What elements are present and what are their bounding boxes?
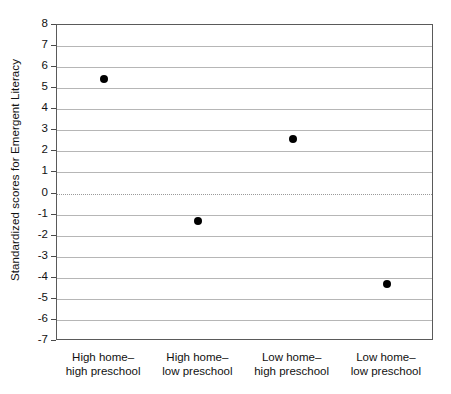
y-axis-tick-label: 8: [8, 18, 48, 30]
y-axis-tick-label: 7: [8, 39, 48, 51]
data-point: [289, 135, 297, 143]
gridline: [57, 130, 432, 131]
gridline: [57, 67, 432, 68]
gridline: [57, 320, 432, 321]
y-axis-tick-mark: [51, 340, 56, 341]
x-axis-category-label-line1: High home–: [150, 350, 244, 364]
gridline: [57, 151, 432, 152]
data-point: [100, 75, 108, 83]
y-axis-tick-label: -4: [8, 271, 48, 283]
gridline: [57, 299, 432, 300]
x-axis-category-label-line2: low preschool: [150, 364, 244, 378]
y-axis-tick-label: 2: [8, 144, 48, 156]
gridline: [57, 215, 432, 216]
gridline: [57, 172, 432, 173]
y-axis-tick-label: -6: [8, 313, 48, 325]
gridline: [57, 236, 432, 237]
gridline: [57, 257, 432, 258]
x-axis-category-label-line2: high preschool: [245, 364, 339, 378]
x-axis-category-label: Low home–high preschool: [245, 350, 339, 390]
plot-area: [56, 24, 433, 340]
y-axis-tick-label: 3: [8, 123, 48, 135]
gridline: [57, 278, 432, 279]
x-axis-category-label-line1: Low home–: [339, 350, 433, 364]
gridline: [57, 109, 432, 110]
data-point: [194, 217, 202, 225]
x-axis-category-label-line1: Low home–: [245, 350, 339, 364]
x-axis-category-label: High home–high preschool: [56, 350, 150, 390]
x-axis-category-label-line2: high preschool: [56, 364, 150, 378]
y-axis-tick-label: 4: [8, 102, 48, 114]
data-point: [383, 280, 391, 288]
y-axis-tick-label: 1: [8, 165, 48, 177]
x-axis-labels: High home–high preschoolHigh home–low pr…: [56, 350, 433, 390]
y-axis-tick-label: 6: [8, 60, 48, 72]
y-axis-tick-label: -1: [8, 208, 48, 220]
x-axis-category-label: High home–low preschool: [150, 350, 244, 390]
gridline: [57, 46, 432, 47]
x-axis-category-label-line2: low preschool: [339, 364, 433, 378]
y-axis-tick-label: -5: [8, 292, 48, 304]
x-axis-category-label-line1: High home–: [56, 350, 150, 364]
x-axis-category-label: Low home–low preschool: [339, 350, 433, 390]
zero-reference-line: [57, 194, 432, 195]
gridline: [57, 88, 432, 89]
y-axis-tick-label: 5: [8, 81, 48, 93]
y-axis-tick-label: -2: [8, 229, 48, 241]
y-axis-tick-label: -3: [8, 250, 48, 262]
y-axis-tick-label: 0: [8, 187, 48, 199]
y-axis-tick-label: -7: [8, 334, 48, 346]
